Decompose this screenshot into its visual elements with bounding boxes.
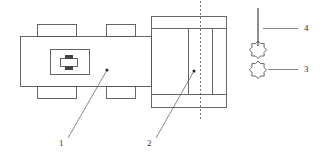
gear-lower [249,61,266,79]
top-tab-left [38,25,77,37]
bottom-tab-right [107,87,136,99]
label-4: 4 [304,24,309,33]
right-block [152,17,227,108]
label-3: 3 [304,65,309,74]
bottom-tab-left [38,87,77,99]
inner-slot [61,59,78,67]
label-2: 2 [147,139,152,148]
label-1: 1 [59,139,64,148]
pointer-dot-1 [106,69,109,72]
schematic-drawing [0,0,323,154]
main-body [21,37,152,87]
pointer-dot-2 [193,70,196,73]
top-tab-right [107,25,136,37]
